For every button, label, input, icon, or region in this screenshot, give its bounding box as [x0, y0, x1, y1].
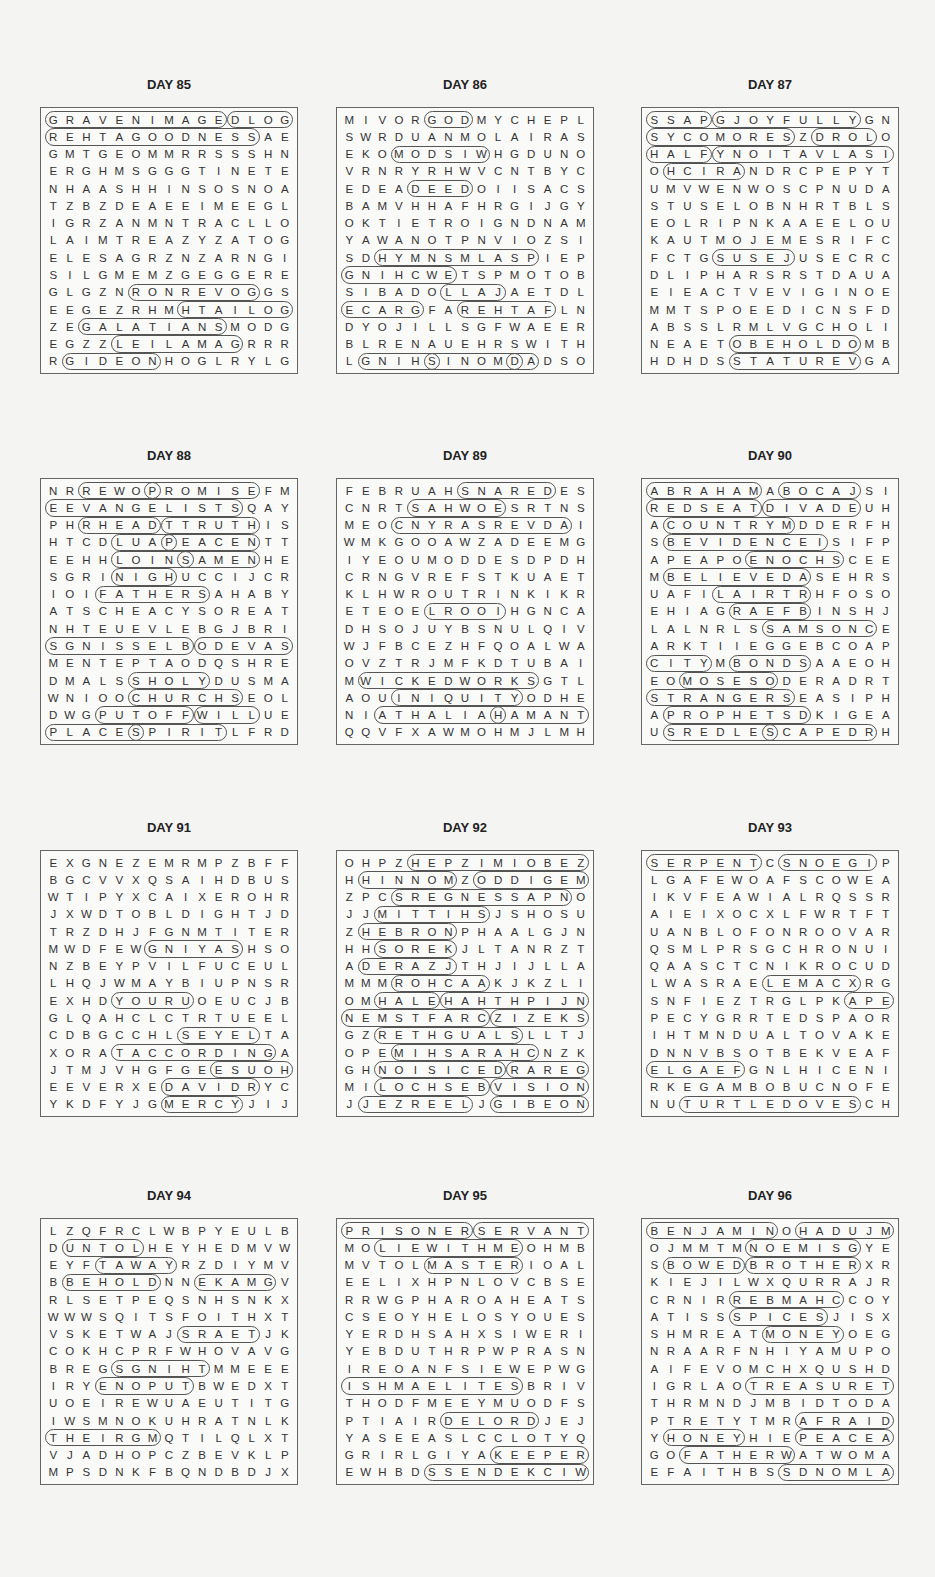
grid-letter: T — [276, 534, 293, 551]
grid-letter: S — [490, 1326, 507, 1343]
grid-letter: P — [696, 266, 713, 283]
grid-letter: T — [177, 1429, 194, 1446]
grid-letter: M — [861, 335, 878, 352]
grid-letter: Y — [440, 620, 457, 637]
grid-letter: A — [729, 499, 746, 516]
grid-letter: O — [260, 689, 277, 706]
grid-letter: S — [696, 958, 713, 975]
grid-letter: L — [177, 672, 194, 689]
grid-letter: A — [177, 1078, 194, 1095]
grid-letter: I — [194, 906, 211, 923]
grid-letter: M — [161, 301, 178, 318]
grid-letter: F — [243, 724, 260, 741]
grid-letter: R — [663, 1291, 680, 1308]
grid-letter: U — [696, 517, 713, 534]
grid-letter: S — [861, 586, 878, 603]
grid-letter: N — [844, 620, 861, 637]
grid-letter: J — [407, 620, 424, 637]
grid-letter: N — [745, 215, 762, 232]
grid-letter: E — [374, 180, 391, 197]
grid-letter: A — [523, 318, 540, 335]
grid-letter: G — [341, 1061, 358, 1078]
grid-letter: T — [95, 1239, 112, 1256]
grid-letter: Z — [457, 871, 474, 888]
grid-letter: S — [795, 871, 812, 888]
grid-letter: O — [457, 603, 474, 620]
grid-letter: V — [778, 318, 795, 335]
grid-letter: M — [128, 975, 145, 992]
grid-letter: J — [861, 1274, 878, 1291]
grid-letter: G — [128, 1360, 145, 1377]
grid-letter: T — [95, 1257, 112, 1274]
grid-letter: T — [111, 1326, 128, 1343]
grid-letter: N — [161, 215, 178, 232]
grid-letter: I — [391, 906, 408, 923]
grid-letter: E — [260, 1009, 277, 1026]
grid-letter: Z — [341, 923, 358, 940]
grid-letter: D — [795, 1009, 812, 1026]
grid-letter: D — [177, 906, 194, 923]
grid-letter: T — [177, 517, 194, 534]
grid-letter: F — [861, 517, 878, 534]
grid-letter: H — [712, 482, 729, 499]
grid-letter: K — [341, 586, 358, 603]
grid-letter: M — [712, 232, 729, 249]
letter-grid: OHPZHEPZIMIOBEZHHINNOMZODDIGEMZPCSREGNES… — [336, 850, 594, 1117]
grid-letter: R — [407, 655, 424, 672]
grid-letter: S — [358, 1308, 375, 1325]
grid-letter: D — [828, 1222, 845, 1239]
grid-letter: G — [210, 266, 227, 283]
grid-letter: L — [712, 923, 729, 940]
grid-letter: O — [391, 1257, 408, 1274]
grid-letter: F — [161, 1061, 178, 1078]
grid-letter: U — [795, 249, 812, 266]
grid-letter: T — [144, 318, 161, 335]
grid-letter: U — [227, 992, 244, 1009]
grid-letter: E — [572, 689, 589, 706]
word-search-puzzle: DAY 88NRREWOPROMISEFMEEVANGELISTSQAYPHRH… — [40, 446, 298, 745]
grid-letter: I — [457, 706, 474, 723]
grid-letter: G — [539, 871, 556, 888]
grid-letter: R — [572, 318, 589, 335]
grid-letter: E — [877, 1239, 894, 1256]
grid-letter: A — [490, 482, 507, 499]
grid-letter: L — [424, 318, 441, 335]
grid-letter: D — [243, 1464, 260, 1481]
grid-letter: H — [457, 1326, 474, 1343]
grid-letter: Y — [861, 1239, 878, 1256]
grid-letter: O — [523, 1239, 540, 1256]
grid-letter: H — [194, 1343, 211, 1360]
grid-letter: K — [556, 1009, 573, 1026]
grid-letter: Q — [539, 620, 556, 637]
grid-letter: X — [762, 1274, 779, 1291]
grid-letter: I — [646, 1377, 663, 1394]
grid-letter: S — [844, 1096, 861, 1113]
grid-letter: O — [762, 180, 779, 197]
grid-letter: I — [811, 603, 828, 620]
grid-letter: T — [424, 906, 441, 923]
grid-letter: I — [795, 1395, 812, 1412]
grid-letter: A — [227, 1274, 244, 1291]
grid-letter: S — [490, 1308, 507, 1325]
grid-letter: I — [473, 1360, 490, 1377]
grid-letter: J — [663, 1239, 680, 1256]
grid-letter: H — [210, 689, 227, 706]
grid-letter: A — [795, 1291, 812, 1308]
grid-letter: V — [778, 284, 795, 301]
grid-letter: N — [490, 620, 507, 637]
grid-letter: M — [424, 1257, 441, 1274]
grid-letter: G — [144, 940, 161, 957]
grid-letter: D — [45, 706, 62, 723]
grid-letter: R — [391, 1446, 408, 1463]
grid-letter: C — [490, 163, 507, 180]
grid-letter: F — [424, 301, 441, 318]
grid-letter: N — [712, 689, 729, 706]
grid-letter: S — [506, 1377, 523, 1394]
grid-letter: R — [128, 301, 145, 318]
grid-letter: I — [506, 854, 523, 871]
grid-letter: A — [539, 1343, 556, 1360]
grid-letter: J — [572, 1412, 589, 1429]
grid-letter: V — [811, 146, 828, 163]
grid-letter: H — [374, 992, 391, 1009]
grid-letter: C — [260, 568, 277, 585]
